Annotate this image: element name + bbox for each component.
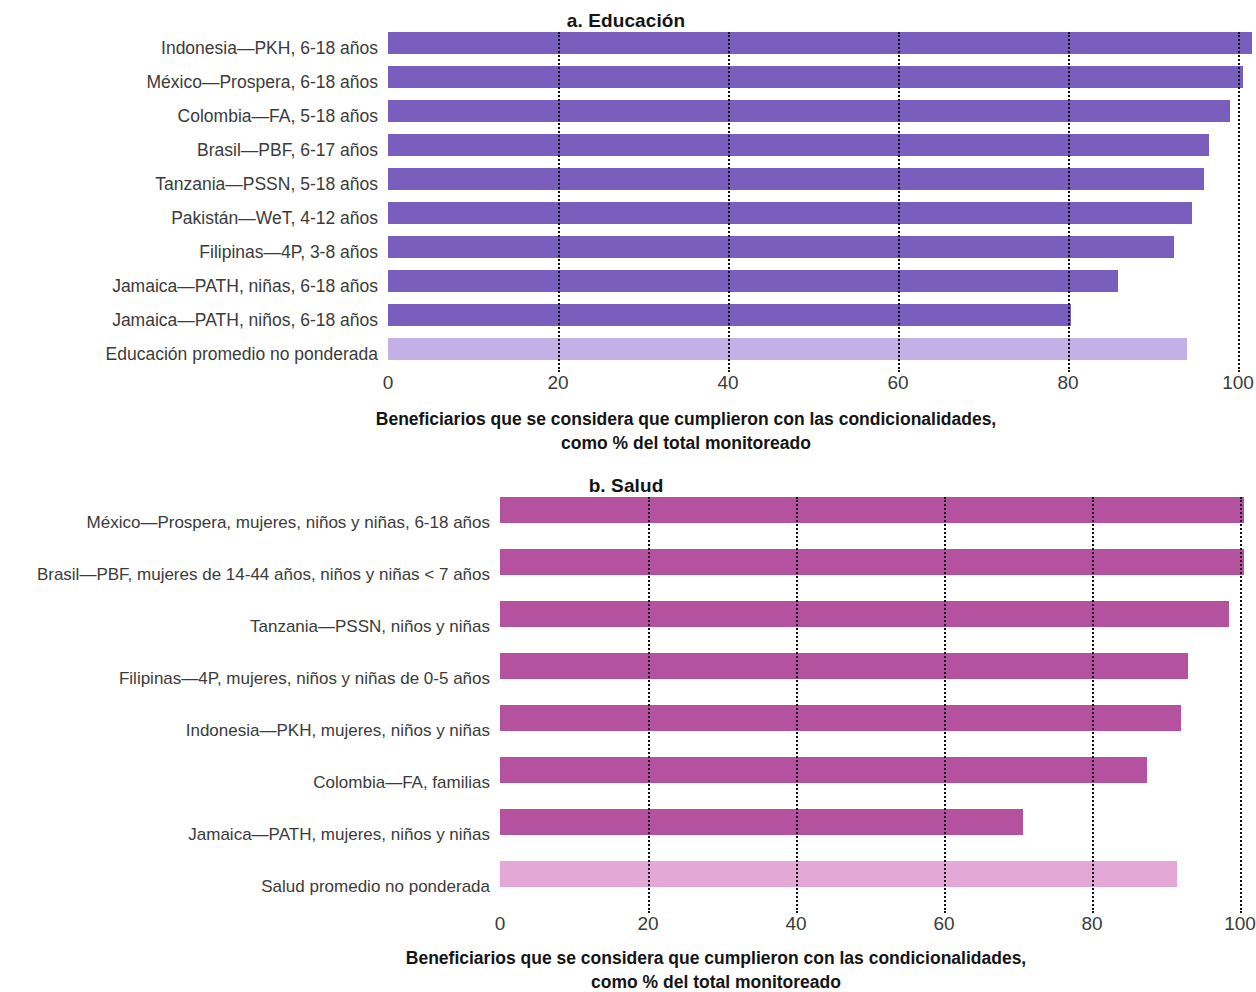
- category-label: Filipinas—4P, mujeres, niños y niñas de …: [0, 670, 500, 689]
- x-tick-label: 20: [547, 372, 568, 394]
- bar-track: [500, 549, 1252, 601]
- bar: [500, 549, 1244, 575]
- category-label: Filipinas—4P, 3-8 años: [0, 243, 388, 262]
- x-tick-label: 80: [1057, 372, 1078, 394]
- category-label: Indonesia—PKH, 6-18 años: [0, 39, 388, 58]
- bar-track: [388, 202, 1252, 236]
- category-label: Brasil—PBF, mujeres de 14-44 años, niños…: [0, 566, 500, 585]
- panel-a-axis-caption-line1: Beneficiarios que se considera que cumpl…: [120, 408, 1252, 432]
- category-label: Tanzania—PSSN, 5-18 años: [0, 175, 388, 194]
- bar: [500, 861, 1177, 887]
- category-label: Indonesia—PKH, mujeres, niños y niñas: [0, 722, 500, 741]
- category-label: Colombia—FA, 5-18 años: [0, 107, 388, 126]
- category-label: Colombia—FA, familias: [0, 774, 500, 793]
- category-label: Jamaica—PATH, mujeres, niños y niñas: [0, 826, 500, 845]
- panel-salud: b. Salud México—Prospera, mujeres, niños…: [0, 469, 1252, 992]
- x-tick-label: 60: [933, 913, 954, 935]
- bar-track: [388, 338, 1252, 372]
- bar-track: [500, 601, 1252, 653]
- category-label: México—Prospera, mujeres, niños y niñas,…: [0, 514, 500, 533]
- bar-row: Tanzania—PSSN, 5-18 años: [0, 168, 1252, 202]
- x-tick-label: 100: [1222, 372, 1254, 394]
- panel-b-title: b. Salud: [0, 475, 1252, 497]
- bar-row: Brasil—PBF, mujeres de 14-44 años, niños…: [0, 549, 1252, 601]
- x-tick-label: 0: [383, 372, 394, 394]
- bar-track: [388, 134, 1252, 168]
- bar: [388, 66, 1243, 88]
- bar: [388, 202, 1192, 224]
- bar-row: Tanzania—PSSN, niños y niñas: [0, 601, 1252, 653]
- panel-a-bar-rows: Indonesia—PKH, 6-18 añosMéxico—Prospera,…: [0, 32, 1252, 372]
- bar-row: Jamaica—PATH, mujeres, niños y niñas: [0, 809, 1252, 861]
- category-label: Brasil—PBF, 6-17 años: [0, 141, 388, 160]
- bar: [500, 809, 1023, 835]
- panel-b-x-axis: 020406080100: [0, 913, 1252, 943]
- panel-b-bar-rows: México—Prospera, mujeres, niños y niñas,…: [0, 497, 1252, 913]
- bar-track: [500, 809, 1252, 861]
- bar: [388, 168, 1204, 190]
- bar: [388, 304, 1071, 326]
- bar: [388, 338, 1187, 360]
- bar-row: Pakistán—WeT, 4-12 años: [0, 202, 1252, 236]
- bar-row: Filipinas—4P, mujeres, niños y niñas de …: [0, 653, 1252, 705]
- x-tick-label: 60: [887, 372, 908, 394]
- x-tick-label: 40: [717, 372, 738, 394]
- category-label: Jamaica—PATH, niñas, 6-18 años: [0, 277, 388, 296]
- bar-row: Jamaica—PATH, niños, 6-18 años: [0, 304, 1252, 338]
- x-tick-label: 40: [785, 913, 806, 935]
- bar-row: Educación promedio no ponderada: [0, 338, 1252, 372]
- category-label: Tanzania—PSSN, niños y niñas: [0, 618, 500, 637]
- bar-track: [500, 653, 1252, 705]
- bar: [500, 653, 1188, 679]
- panel-b-plot: México—Prospera, mujeres, niños y niñas,…: [0, 497, 1252, 943]
- bar-row: México—Prospera, mujeres, niños y niñas,…: [0, 497, 1252, 549]
- bar-row: México—Prospera, 6-18 años: [0, 66, 1252, 100]
- bar-row: Indonesia—PKH, mujeres, niños y niñas: [0, 705, 1252, 757]
- panel-b-axis-caption: Beneficiarios que se considera que cumpl…: [0, 947, 1252, 992]
- panel-a-plot: Indonesia—PKH, 6-18 añosMéxico—Prospera,…: [0, 32, 1252, 402]
- bar-row: Colombia—FA, 5-18 años: [0, 100, 1252, 134]
- bar-track: [388, 100, 1252, 134]
- panel-b-axis-caption-line2: como % del total monitoreado: [180, 971, 1252, 992]
- bar-track: [388, 270, 1252, 304]
- bar-track: [388, 66, 1252, 100]
- bar: [388, 134, 1209, 156]
- bar-row: Colombia—FA, familias: [0, 757, 1252, 809]
- bar-row: Brasil—PBF, 6-17 años: [0, 134, 1252, 168]
- x-tick-label: 100: [1224, 913, 1256, 935]
- panel-a-axis-caption: Beneficiarios que se considera que cumpl…: [0, 408, 1252, 455]
- panel-b-axis-caption-line1: Beneficiarios que se considera que cumpl…: [180, 947, 1252, 971]
- category-label: México—Prospera, 6-18 años: [0, 73, 388, 92]
- bar: [500, 601, 1229, 627]
- panel-educacion: a. Educación Indonesia—PKH, 6-18 añosMéx…: [0, 0, 1252, 455]
- bar-track: [388, 32, 1252, 66]
- panel-divider: [0, 455, 1252, 469]
- x-tick-label: 0: [495, 913, 506, 935]
- panel-a-x-axis: 020406080100: [0, 372, 1252, 402]
- category-label: Salud promedio no ponderada: [0, 878, 500, 897]
- bar-track: [500, 757, 1252, 809]
- bar: [500, 705, 1181, 731]
- bar: [388, 32, 1252, 54]
- category-label: Jamaica—PATH, niños, 6-18 años: [0, 311, 388, 330]
- category-label: Educación promedio no ponderada: [0, 345, 388, 364]
- x-tick-label: 20: [637, 913, 658, 935]
- bar-track: [500, 705, 1252, 757]
- x-tick-label: 80: [1081, 913, 1102, 935]
- bar-row: Indonesia—PKH, 6-18 años: [0, 32, 1252, 66]
- bar: [388, 100, 1230, 122]
- category-label: Pakistán—WeT, 4-12 años: [0, 209, 388, 228]
- bar-row: Filipinas—4P, 3-8 años: [0, 236, 1252, 270]
- bar: [388, 270, 1118, 292]
- bar-track: [388, 168, 1252, 202]
- bar-row: Jamaica—PATH, niñas, 6-18 años: [0, 270, 1252, 304]
- bar: [500, 757, 1147, 783]
- bar: [388, 236, 1174, 258]
- bar: [500, 497, 1244, 523]
- bar-row: Salud promedio no ponderada: [0, 861, 1252, 913]
- bar-track: [388, 304, 1252, 338]
- panel-a-axis-caption-line2: como % del total monitoreado: [120, 432, 1252, 456]
- bar-track: [500, 861, 1252, 913]
- bar-track: [388, 236, 1252, 270]
- bar-track: [500, 497, 1252, 549]
